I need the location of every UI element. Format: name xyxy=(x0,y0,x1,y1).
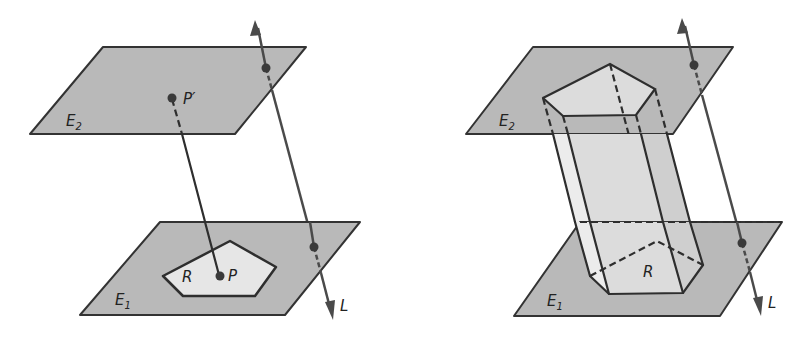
arrow-down-icon xyxy=(325,300,335,320)
label-r-right: R xyxy=(643,263,653,281)
l-e2-intersection-dot-right xyxy=(690,61,699,70)
label-l-left: L xyxy=(340,297,348,315)
left-figure: E2 P′ R P E1 L xyxy=(30,20,360,320)
arrow-up-icon xyxy=(250,20,261,36)
diagram-canvas: E2 P′ R P E1 L xyxy=(0,0,803,340)
arrow-up-icon xyxy=(677,18,688,34)
l-e2-intersection-dot-left xyxy=(262,64,271,73)
l-e1-intersection-dot-right xyxy=(738,239,747,248)
arrow-down-icon xyxy=(753,296,763,316)
line-l-middle-right xyxy=(702,95,742,243)
line-l-bottom-left xyxy=(321,273,329,304)
label-p-prime: P′ xyxy=(183,90,196,108)
right-figure: E2 R E1 L xyxy=(466,18,782,316)
point-p-dot xyxy=(216,272,225,281)
label-r-left: R xyxy=(182,268,192,286)
point-p-prime-dot xyxy=(168,94,177,103)
label-l-right: L xyxy=(768,294,776,312)
l-e1-intersection-dot-left xyxy=(310,243,319,252)
label-p: P xyxy=(228,267,238,285)
line-l-bottom-right xyxy=(750,272,757,300)
